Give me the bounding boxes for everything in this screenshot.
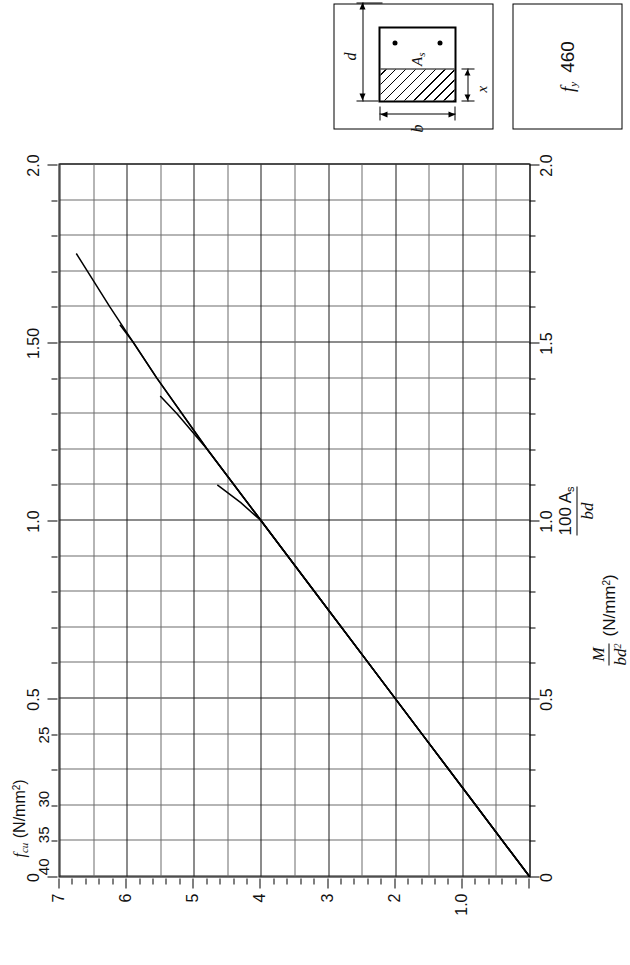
x-tick-top xyxy=(51,556,57,557)
x-tick-top xyxy=(47,342,57,343)
y-tick-label: 4 xyxy=(250,893,268,965)
fy-value: 460 xyxy=(556,41,578,73)
y-tick xyxy=(152,878,153,884)
y-tick xyxy=(85,878,86,884)
x-tick-top xyxy=(51,591,57,592)
x-tick-top xyxy=(51,769,57,770)
curve-fcu-25 xyxy=(217,484,529,876)
y-tick xyxy=(58,878,59,888)
x-tick xyxy=(529,306,535,307)
curve-fcu-40 xyxy=(76,253,529,876)
dim-b-line xyxy=(379,113,455,114)
x-tick-label: 0.5 xyxy=(537,688,555,710)
y-tick-label: 5 xyxy=(183,893,201,965)
compression-zone-hatch xyxy=(380,68,454,100)
x-tick-label: 1.5 xyxy=(537,332,555,354)
x-tick-label: 1.0 xyxy=(537,510,555,532)
y-tick xyxy=(407,878,408,884)
dim-d-arrow-right xyxy=(359,2,365,9)
x-tick xyxy=(529,591,535,592)
y-tick xyxy=(98,878,99,884)
beam-section-rect: As xyxy=(378,26,456,102)
x-tick-top xyxy=(51,306,57,307)
y-tick xyxy=(165,878,166,884)
y-tick xyxy=(219,878,220,884)
x-tick-top xyxy=(51,271,57,272)
y-tick xyxy=(286,878,287,884)
y-tick xyxy=(447,878,448,884)
dim-x-arrow-right xyxy=(464,69,470,75)
y-tick xyxy=(340,878,341,884)
y-tick xyxy=(367,878,368,884)
x-tick-top xyxy=(47,164,57,165)
y-tick xyxy=(300,878,301,884)
fy-info-box: fy 460 xyxy=(512,3,622,129)
x-tick-top xyxy=(51,662,57,663)
dim-b-label: b xyxy=(408,124,426,132)
x-tick xyxy=(529,805,535,806)
x-tick xyxy=(529,235,535,236)
y-tick xyxy=(353,878,354,884)
y-tick xyxy=(139,878,140,884)
x-tick-label-top: 1.0 xyxy=(24,510,42,532)
dim-d-line xyxy=(362,2,363,101)
chart-curves xyxy=(59,164,529,876)
y-tick xyxy=(515,878,516,884)
x-tick-top xyxy=(47,520,57,521)
rebar-dot-top xyxy=(392,40,397,45)
x-tick xyxy=(529,769,535,770)
y-tick xyxy=(380,878,381,884)
x-tick-top xyxy=(51,449,57,450)
y-tick xyxy=(394,878,395,888)
x-tick-top xyxy=(47,876,57,877)
x-tick xyxy=(529,449,535,450)
x-tick-top xyxy=(51,413,57,414)
y-tick xyxy=(421,878,422,884)
y-tick xyxy=(179,878,180,884)
y-axis-title: M bd2 (N/mm2) xyxy=(588,574,630,665)
y-tick-label: 7 xyxy=(49,893,67,965)
dim-x-label: x xyxy=(473,85,490,92)
x-tick xyxy=(529,378,535,379)
x-tick xyxy=(529,840,535,841)
y-tick xyxy=(434,878,435,884)
x-tick-top xyxy=(51,734,57,735)
y-tick xyxy=(313,878,314,884)
x-tick xyxy=(529,271,535,272)
y-tick xyxy=(273,878,274,884)
y-tick-label: 1.0 xyxy=(452,893,470,965)
x-tick xyxy=(529,200,535,201)
y-tick-label: 6 xyxy=(116,893,134,965)
x-tick-top xyxy=(51,805,57,806)
x-axis-title: 100 As bd xyxy=(556,486,595,535)
x-tick-label-top: 1.50 xyxy=(24,327,42,358)
y-tick xyxy=(192,878,193,888)
y-tick xyxy=(474,878,475,884)
y-tick xyxy=(125,878,126,888)
dim-b-arrow-bottom xyxy=(448,111,455,117)
x-tick xyxy=(529,484,535,485)
dim-d-label: d xyxy=(341,52,359,60)
x-tick xyxy=(529,627,535,628)
x-tick xyxy=(529,556,535,557)
design-chart-plot xyxy=(58,163,530,877)
beam-section-diagram: d b As x xyxy=(333,3,493,129)
curve-label-25: 25 xyxy=(34,726,51,743)
y-tick xyxy=(488,878,489,884)
curve-label-35: 35 xyxy=(34,826,51,843)
x-tick xyxy=(529,662,535,663)
y-tick-label: 3 xyxy=(318,893,336,965)
dim-d-arrow-left xyxy=(359,93,365,100)
y-tick xyxy=(233,878,234,884)
y-tick xyxy=(501,878,502,884)
dim-x-arrow-left xyxy=(464,94,470,100)
x-tick xyxy=(529,734,535,735)
x-tick-top xyxy=(51,627,57,628)
dim-b-arrow-top xyxy=(380,111,387,117)
y-tick xyxy=(528,878,529,888)
y-tick xyxy=(112,878,113,884)
y-tick xyxy=(246,878,247,884)
curve-label-40: 40 xyxy=(34,858,51,875)
fcu-legend-title: fcu (N/mm2) xyxy=(10,779,29,857)
